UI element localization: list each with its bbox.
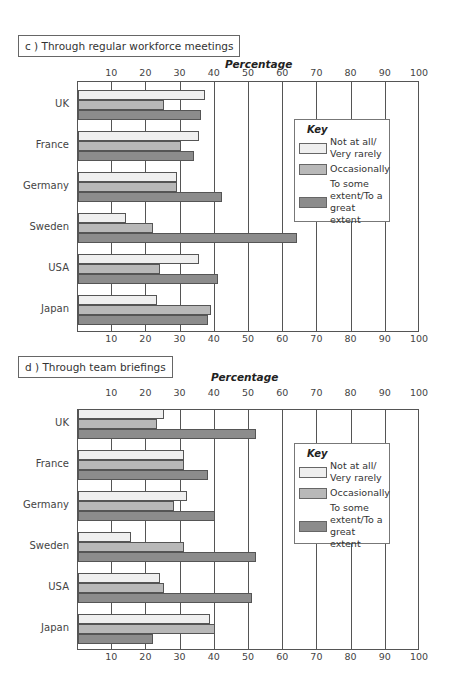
category-label-sweden: Sweden (3, 540, 69, 551)
category-label-usa: USA (3, 581, 69, 592)
x-tick-label: 60 (276, 651, 288, 662)
key-label: Not at all/ Very rarely (330, 460, 385, 484)
key-label: Occasionally (330, 487, 390, 499)
x-tick-label: 50 (242, 651, 254, 662)
x-tick-label: 30 (174, 387, 186, 398)
bar-usa-series-0 (78, 573, 160, 583)
x-tick-label: 10 (105, 651, 117, 662)
bar-japan-series-2 (78, 634, 153, 644)
bar-uk-series-1 (78, 419, 157, 429)
bar-sweden-series-1 (78, 542, 184, 552)
bar-usa-series-2 (78, 593, 252, 603)
x-tick-label: 20 (139, 387, 151, 398)
key-item-not-at-all: Not at all/ Very rarely (299, 460, 385, 484)
key-item-occasionally: Occasionally (299, 487, 385, 499)
bar-france-series-2 (78, 470, 208, 480)
x-tick-label: 10 (105, 387, 117, 398)
panel-d: d ) Through team briefings Percentage Ke… (0, 0, 450, 686)
category-label-uk: UK (3, 417, 69, 428)
x-tick-label: 50 (242, 387, 254, 398)
bar-germany-series-0 (78, 491, 187, 501)
x-tick-label: 70 (310, 651, 322, 662)
gridline (214, 410, 215, 649)
category-label-france: France (3, 458, 69, 469)
x-tick-label: 90 (379, 387, 391, 398)
category-label-germany: Germany (3, 499, 69, 510)
swatch-dark (299, 521, 327, 532)
bar-germany-series-1 (78, 501, 174, 511)
bar-france-series-1 (78, 460, 184, 470)
bar-sweden-series-2 (78, 552, 256, 562)
x-tick-label: 40 (208, 387, 220, 398)
panel-d-axis-title: Percentage (211, 371, 278, 383)
panel-d-key: Key Not at all/ Very rarely Occasionally… (294, 443, 390, 544)
swatch-light (299, 467, 327, 478)
bar-usa-series-1 (78, 583, 164, 593)
bar-japan-series-1 (78, 624, 215, 634)
x-tick-label: 30 (174, 651, 186, 662)
x-tick-label: 20 (139, 651, 151, 662)
x-tick-label: 80 (345, 651, 357, 662)
bar-uk-series-0 (78, 409, 164, 419)
panel-d-title: d ) Through team briefings (18, 356, 173, 378)
swatch-medium (299, 488, 327, 499)
x-tick-label: 40 (208, 651, 220, 662)
x-tick-label: 90 (379, 651, 391, 662)
x-tick-label: 100 (410, 651, 428, 662)
bar-germany-series-2 (78, 511, 215, 521)
bar-france-series-0 (78, 450, 184, 460)
bar-sweden-series-0 (78, 532, 131, 542)
gridline (248, 410, 249, 649)
key-title: Key (307, 448, 385, 459)
gridline (282, 410, 283, 649)
x-tick-label: 70 (310, 387, 322, 398)
category-label-japan: Japan (3, 622, 69, 633)
x-tick-label: 80 (345, 387, 357, 398)
key-label: To some extent/To a great extent (330, 502, 385, 550)
x-tick-label: 100 (410, 387, 428, 398)
key-item-to-some-extent: To some extent/To a great extent (299, 502, 385, 550)
x-tick-label: 60 (276, 387, 288, 398)
bar-japan-series-0 (78, 614, 210, 624)
bar-uk-series-2 (78, 429, 256, 439)
